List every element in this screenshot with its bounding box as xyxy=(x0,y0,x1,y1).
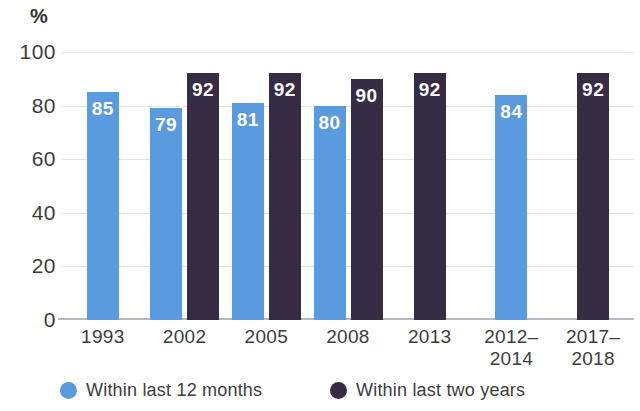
x-axis-tick-label: 1993 xyxy=(62,326,144,348)
bar-value-label: 85 xyxy=(87,98,119,120)
bar: 92 xyxy=(577,73,609,320)
y-axis-tick-label: 40 xyxy=(4,201,56,225)
bar-value-label: 90 xyxy=(351,85,383,107)
y-axis-tick-label: 100 xyxy=(4,40,56,64)
bar-value-label: 84 xyxy=(495,101,527,123)
gridline xyxy=(62,159,634,160)
bar: 92 xyxy=(414,73,446,320)
legend-label: Within last 12 months xyxy=(86,380,262,401)
gridline xyxy=(62,266,634,267)
legend-item[interactable]: Within last two years xyxy=(330,380,525,401)
bar: 79 xyxy=(150,108,182,320)
chart-legend: Within last 12 monthsWithin last two yea… xyxy=(0,380,640,410)
y-axis-tick-label: 20 xyxy=(4,254,56,278)
bar-value-label: 92 xyxy=(269,79,301,101)
legend-swatch-circle-icon xyxy=(330,382,347,399)
x-axis-tick-label-line: 1993 xyxy=(62,326,144,348)
bar: 90 xyxy=(351,79,383,320)
legend-label: Within last two years xyxy=(356,380,525,401)
x-axis-tick-label-line: 2014 xyxy=(471,348,553,370)
y-axis-unit-label: % xyxy=(30,5,48,28)
bar: 81 xyxy=(232,103,264,320)
legend-swatch-circle-icon xyxy=(60,382,77,399)
bar-value-label: 80 xyxy=(314,112,346,134)
y-axis-tick-label: 60 xyxy=(4,147,56,171)
bar: 84 xyxy=(495,95,527,320)
bar: 80 xyxy=(314,106,346,320)
x-axis-tick-label: 2013 xyxy=(389,326,471,348)
x-axis-tick-label-line: 2013 xyxy=(389,326,471,348)
legend-item[interactable]: Within last 12 months xyxy=(60,380,262,401)
x-axis-tick-label-line: 2018 xyxy=(552,348,634,370)
x-axis-tick-label-line: 2017– xyxy=(552,326,634,348)
y-axis-tick-label: 0 xyxy=(4,308,56,332)
bar-value-label: 92 xyxy=(577,79,609,101)
gridline xyxy=(62,213,634,214)
gridline xyxy=(62,52,634,53)
bar-value-label: 92 xyxy=(414,79,446,101)
gridline xyxy=(62,106,634,107)
x-axis-tick-label-line: 2005 xyxy=(225,326,307,348)
bar: 92 xyxy=(187,73,219,320)
x-axis-tick-label-line: 2008 xyxy=(307,326,389,348)
bar-chart: % 100806040200 85799281928090928492 1993… xyxy=(0,0,640,411)
x-axis-tick-label: 2017–2018 xyxy=(552,326,634,370)
x-axis-tick-label: 2008 xyxy=(307,326,389,348)
bar-value-label: 81 xyxy=(232,109,264,131)
bar: 92 xyxy=(269,73,301,320)
y-axis-tick-labels: 100806040200 xyxy=(0,52,56,320)
x-axis-line xyxy=(58,318,634,320)
x-axis-tick-label: 2012–2014 xyxy=(471,326,553,370)
plot-area: 85799281928090928492 xyxy=(62,52,634,320)
y-axis-tick-label: 80 xyxy=(4,94,56,118)
bar: 85 xyxy=(87,92,119,320)
x-axis-tick-label-line: 2012– xyxy=(471,326,553,348)
bar-value-label: 92 xyxy=(187,79,219,101)
bar-value-label: 79 xyxy=(150,114,182,136)
x-axis-tick-label: 2005 xyxy=(225,326,307,348)
x-axis-tick-label-line: 2002 xyxy=(144,326,226,348)
x-axis-tick-label: 2002 xyxy=(144,326,226,348)
